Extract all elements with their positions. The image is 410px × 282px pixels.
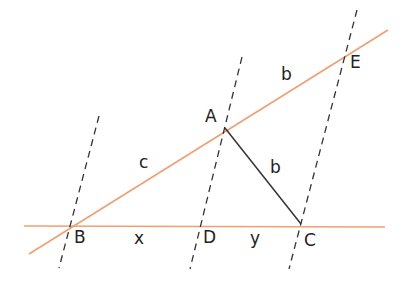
label-point-a: A (205, 106, 217, 126)
slanted-line-be (29, 30, 388, 254)
label-segment-c: c (139, 152, 148, 172)
geometry-diagram: A B C D E c b b x y (0, 0, 410, 282)
label-segment-b-upper: b (281, 64, 292, 84)
label-point-d: D (203, 227, 216, 247)
label-point-c: C (304, 230, 316, 250)
dashed-line-ec (289, 10, 357, 269)
label-segment-b-lower: b (270, 157, 281, 177)
label-segment-y: y (250, 228, 260, 248)
label-point-b: B (74, 227, 86, 247)
label-point-e: E (350, 52, 361, 72)
segment-ac (225, 128, 301, 224)
label-segment-x: x (134, 228, 144, 248)
